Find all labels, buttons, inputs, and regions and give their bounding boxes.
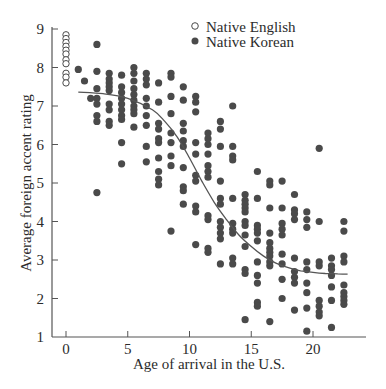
- native-korean-point: [279, 178, 286, 185]
- native-korean-point: [167, 110, 174, 117]
- native-korean-point: [279, 295, 286, 302]
- native-korean-point: [93, 85, 100, 92]
- native-korean-point: [254, 237, 261, 244]
- native-korean-point: [254, 280, 261, 287]
- native-korean-point: [167, 129, 174, 136]
- native-korean-point: [242, 231, 249, 238]
- native-korean-point: [192, 139, 199, 146]
- native-korean-point: [167, 152, 174, 159]
- native-korean-point: [180, 127, 187, 134]
- native-korean-point: [291, 255, 298, 262]
- native-korean-point: [316, 312, 323, 319]
- native-korean-point: [155, 168, 162, 175]
- native-korean-point: [303, 224, 310, 231]
- native-korean-point: [266, 181, 273, 188]
- native-korean-point: [192, 178, 199, 185]
- native-korean-point: [118, 160, 125, 167]
- x-axis-title: Age of arrival in the U.S.: [133, 356, 285, 372]
- y-tick-label: 6: [37, 137, 45, 153]
- native-korean-point: [217, 260, 224, 267]
- native-korean-point: [328, 324, 335, 331]
- legend-label-native-korean: Native Korean: [206, 34, 294, 50]
- y-tick-label: 4: [37, 214, 45, 230]
- native-korean-point: [279, 251, 286, 258]
- native-korean-point: [106, 87, 113, 94]
- native-korean-point: [180, 97, 187, 104]
- native-korean-point: [229, 156, 236, 163]
- native-korean-point: [93, 118, 100, 125]
- native-korean-point: [242, 208, 249, 215]
- native-korean-point: [155, 99, 162, 106]
- native-korean-point: [81, 77, 88, 84]
- y-axis-title: Average foreign accent rating: [18, 94, 34, 272]
- native-english-point: [63, 80, 69, 86]
- native-korean-point: [303, 289, 310, 296]
- y-tick-label: 9: [37, 21, 45, 37]
- native-korean-point: [180, 83, 187, 90]
- native-korean-point: [229, 195, 236, 202]
- native-korean-point: [106, 122, 113, 129]
- native-korean-point: [340, 228, 347, 235]
- native-korean-point: [118, 72, 125, 79]
- native-korean-point: [291, 191, 298, 198]
- x-tick-label: 20: [306, 341, 321, 357]
- native-korean-point: [291, 280, 298, 287]
- native-korean-point: [254, 303, 261, 310]
- legend-label-native-english: Native English: [206, 19, 296, 35]
- x-tick-label: 15: [244, 341, 259, 357]
- native-korean-point: [303, 305, 310, 312]
- native-korean-point: [229, 143, 236, 150]
- scatter-chart: 123456789 05101520 Age of arrival in the…: [0, 0, 386, 389]
- legend-filled-circle-icon: [192, 38, 199, 45]
- y-ticks: 123456789: [37, 21, 59, 345]
- y-tick-label: 3: [37, 252, 45, 268]
- native-korean-point: [204, 174, 211, 181]
- x-tick-label: 5: [124, 341, 132, 357]
- native-korean-point: [316, 262, 323, 269]
- native-korean-point: [155, 126, 162, 133]
- native-korean-point: [192, 151, 199, 158]
- native-korean-point: [266, 262, 273, 269]
- native-korean-point: [328, 272, 335, 279]
- native-korean-point: [254, 195, 261, 202]
- plot-points: [63, 32, 348, 335]
- native-korean-point: [155, 79, 162, 86]
- native-korean-point: [118, 139, 125, 146]
- native-korean-point: [316, 145, 323, 152]
- native-korean-point: [291, 216, 298, 223]
- y-tick-label: 5: [37, 175, 45, 191]
- native-korean-point: [167, 74, 174, 81]
- native-korean-point: [328, 255, 335, 262]
- native-korean-point: [192, 208, 199, 215]
- native-korean-point: [328, 283, 335, 290]
- native-korean-point: [340, 281, 347, 288]
- native-korean-point: [242, 270, 249, 277]
- y-tick-label: 7: [37, 98, 45, 114]
- native-korean-point: [242, 222, 249, 229]
- native-korean-point: [340, 301, 347, 308]
- native-korean-point: [87, 95, 94, 102]
- native-korean-point: [229, 260, 236, 267]
- native-korean-point: [180, 164, 187, 171]
- legend: Native English Native Korean: [192, 19, 297, 50]
- x-tick-label: 10: [182, 341, 197, 357]
- native-korean-point: [316, 218, 323, 225]
- native-korean-point: [204, 249, 211, 256]
- native-korean-point: [303, 280, 310, 287]
- native-korean-point: [204, 141, 211, 148]
- native-korean-point: [143, 122, 150, 129]
- native-korean-point: [75, 66, 82, 73]
- native-korean-point: [303, 216, 310, 223]
- native-korean-point: [118, 116, 125, 123]
- native-korean-point: [93, 68, 100, 75]
- native-korean-point: [279, 276, 286, 283]
- native-korean-point: [254, 168, 261, 175]
- native-korean-point: [192, 108, 199, 115]
- x-ticks: 05101520: [62, 331, 320, 357]
- native-korean-point: [217, 126, 224, 133]
- native-korean-point: [204, 151, 211, 158]
- native-korean-point: [328, 297, 335, 304]
- y-tick-label: 8: [37, 60, 45, 76]
- native-korean-point: [155, 154, 162, 161]
- native-korean-point: [266, 318, 273, 325]
